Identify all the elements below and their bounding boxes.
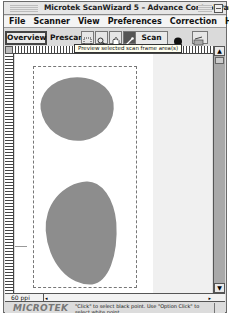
menu-preferences[interactable]: Preferences [108,16,162,27]
color-adjust-button[interactable] [172,31,188,44]
outside-scan-area [153,54,212,293]
scroll-down-arrow-icon[interactable]: ▼ [214,283,225,293]
guide-line [15,246,27,247]
hand-tool-button[interactable] [109,31,122,44]
scroll-thumb[interactable] [215,57,224,64]
status-bar: 60 ppi ◂ ▸ [5,293,225,302]
scanwizard-window: Microtek ScanWizard 5 – Advance Control … [3,1,227,313]
scan-button[interactable]: Scan [135,31,168,45]
scroll-left-arrow-icon[interactable]: ◂ [45,294,48,302]
footer: MICROTEK "Click" to select black point. … [5,303,225,313]
scroll-up-arrow-icon[interactable]: ▲ [214,46,225,56]
title-bar[interactable]: Microtek ScanWizard 5 – Advance Control … [4,2,226,15]
menu-file[interactable]: File [9,16,25,27]
title-stripes-right [198,5,212,12]
prescan-button[interactable]: Prescan [49,31,79,45]
collapse-box-icon[interactable] [214,4,223,13]
zoom-tool-button[interactable] [95,31,108,44]
title-stripes-left [10,5,38,12]
resize-grow-box[interactable] [214,303,224,313]
menu-help[interactable]: Help [225,16,229,27]
scroll-right-arrow-icon[interactable]: ▸ [208,294,211,302]
menu-view[interactable]: View [78,16,100,27]
ruler-corner[interactable] [5,46,13,54]
vertical-ruler [5,54,14,293]
tooltip: Preview selected scan frame area(s) [74,44,182,53]
overview-button[interactable]: Overview [5,31,47,45]
output-button[interactable] [192,31,208,44]
preview-canvas[interactable] [15,54,212,293]
frame-select-tool-button[interactable] [81,31,94,44]
hint-text: "Click" to select black point. Use "Opti… [75,303,215,313]
menu-scanner[interactable]: Scanner [33,16,70,27]
vertical-scrollbar[interactable]: ▲ ▼ [213,46,225,293]
menu-correction[interactable]: Correction [170,16,217,27]
microtek-logo: MICROTEK [13,303,68,313]
status-divider [43,294,44,302]
resolution-label: 60 ppi [11,294,30,302]
menu-bar: File Scanner View Preferences Correction… [4,16,226,28]
